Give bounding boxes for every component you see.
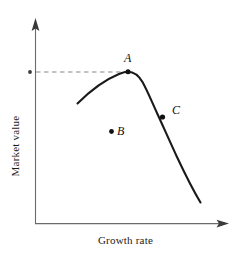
market-value-growth-rate-chart xyxy=(0,0,251,259)
market-value-curve xyxy=(78,72,201,203)
x-axis-label: Growth rate xyxy=(0,234,251,246)
point-c-marker xyxy=(160,114,165,119)
point-a-label: A xyxy=(124,51,131,66)
point-b-label: B xyxy=(117,124,124,139)
peak-level-tick-dot xyxy=(28,70,32,74)
point-b-marker xyxy=(109,129,114,134)
y-axis-label: Market value xyxy=(9,91,21,201)
figure-canvas: A B C Growth rate Market value xyxy=(0,0,251,259)
point-a-marker xyxy=(126,69,131,74)
point-c-label: C xyxy=(172,103,180,118)
